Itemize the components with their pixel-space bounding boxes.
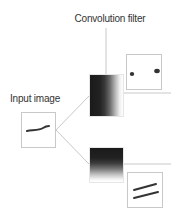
two-dots-icon — [127, 55, 163, 91]
convolution-filter-label: Convolution filter — [60, 13, 160, 24]
input-image-box — [21, 112, 56, 148]
filter-top-horizontal-gradient — [89, 74, 124, 117]
input-image-label: Input image — [10, 93, 60, 104]
output-bottom-box — [127, 172, 163, 208]
filter-bottom-vertical-gradient — [89, 147, 124, 183]
curved-stroke-icon — [22, 113, 57, 149]
parallel-lines-icon — [128, 173, 164, 209]
connector-input-to-filter-bottom — [56, 130, 89, 164]
output-top-box — [126, 54, 162, 90]
connector-input-to-filter-top — [56, 96, 89, 130]
